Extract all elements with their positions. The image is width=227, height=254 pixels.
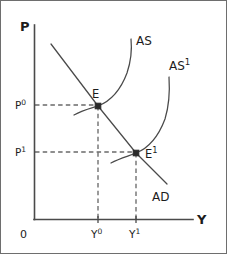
price-axis-label: P — [20, 19, 30, 34]
as-curve-label-base: AS — [136, 34, 152, 48]
figure-frame: P Y 0 P0 P1 Y0 Y1 AS AS1 — [0, 0, 227, 254]
tick-label-y1-sup: 1 — [135, 227, 140, 236]
equilibrium-label-e1-base: E — [145, 147, 152, 161]
ad-curve[interactable] — [51, 44, 167, 184]
equilibrium-labels-group: E E1 — [92, 87, 158, 161]
tick-label-p1-sup: 1 — [21, 145, 26, 154]
guide-lines-group — [35, 105, 136, 219]
as-curve[interactable] — [74, 39, 131, 115]
as1-curve-label-sup: 1 — [185, 57, 191, 67]
equilibrium-marker-e1[interactable] — [133, 150, 139, 156]
tick-label-p0: P0 — [15, 98, 26, 112]
tick-label-p0-sup: 0 — [21, 98, 26, 107]
tick-label-y0-sup: 0 — [97, 227, 102, 236]
output-axis-label: Y — [196, 212, 207, 227]
equilibrium-label-e1-sup: 1 — [152, 145, 157, 155]
curves-group — [51, 39, 169, 184]
as-curve-label: AS — [136, 34, 152, 48]
equilibrium-marker-e[interactable] — [95, 103, 101, 109]
as1-curve-label: AS1 — [169, 57, 190, 73]
as1-curve[interactable] — [111, 77, 169, 163]
origin-label: 0 — [20, 228, 27, 241]
equilibrium-label-e: E — [92, 87, 99, 101]
as1-curve-label-base: AS — [169, 59, 185, 73]
ad-as-diagram: P Y 0 P0 P1 Y0 Y1 AS AS1 — [1, 1, 227, 254]
ad-curve-label-base: AD — [152, 190, 169, 204]
tick-label-p1: P1 — [15, 145, 26, 159]
ad-curve-label: AD — [152, 190, 169, 204]
equilibrium-label-e1: E1 — [145, 145, 158, 161]
tick-label-y0: Y0 — [90, 227, 102, 241]
output-tick-labels-group: Y0 Y1 — [90, 227, 140, 241]
equilibrium-label-e-base: E — [92, 87, 99, 101]
price-tick-labels-group: P0 P1 — [15, 98, 26, 159]
tick-label-y1: Y1 — [128, 227, 140, 241]
curve-labels-group: AS AS1 AD — [136, 34, 190, 204]
